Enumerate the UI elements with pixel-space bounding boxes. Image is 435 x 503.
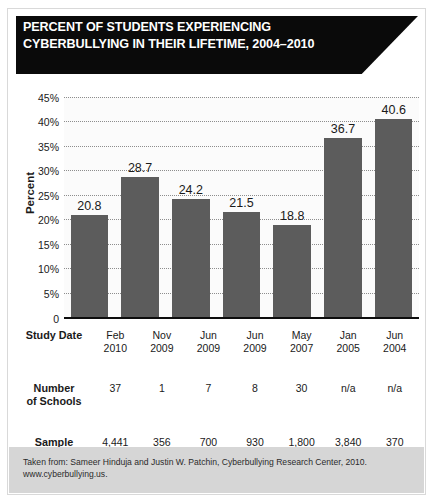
bar-slot: 21.5 bbox=[216, 97, 267, 317]
bar-slot: 18.8 bbox=[267, 97, 318, 317]
cell-study-date: Jun2009 bbox=[185, 329, 232, 355]
page-title-line-1: PERCENT OF STUDENTS EXPERIENCING bbox=[23, 19, 353, 36]
row-label-number-of-schools: Number of Schools bbox=[16, 382, 92, 408]
bar-value-label: 21.5 bbox=[216, 196, 267, 210]
source-line-2: www.cyberbullying.us. bbox=[23, 468, 403, 480]
page-title-line-2: CYBERBULLYING IN THEIR LIFETIME, 2004–20… bbox=[23, 36, 353, 53]
row-label-study-date: Study Date bbox=[16, 329, 92, 342]
cell-study-date: Nov2009 bbox=[139, 329, 186, 355]
page-title: PERCENT OF STUDENTS EXPERIENCING CYBERBU… bbox=[23, 19, 353, 53]
bar[interactable] bbox=[71, 215, 109, 317]
cell-number-of-schools: 30 bbox=[278, 382, 325, 395]
plot-area: 45%40%35%30%25%20%15%10%5%0 20.828.724.2… bbox=[64, 97, 419, 317]
bar-slot: 24.2 bbox=[165, 97, 216, 317]
cell-number-of-schools: n/a bbox=[371, 382, 418, 395]
cell-study-date: Jan2005 bbox=[325, 329, 372, 355]
y-axis-tick-label: 25% bbox=[38, 190, 59, 202]
row-cells-number-of-schools: 3717830n/an/a bbox=[92, 382, 418, 395]
bar[interactable] bbox=[273, 225, 311, 317]
y-axis-tick-label: 0 bbox=[53, 313, 59, 325]
bar[interactable] bbox=[121, 177, 159, 317]
row-cells-study-date: Feb2010Nov2009Jun2009Jun2009May2007Jan20… bbox=[92, 329, 418, 355]
bar-slot: 40.6 bbox=[368, 97, 419, 317]
bar-slot: 20.8 bbox=[64, 97, 115, 317]
axis-baseline: 0 bbox=[64, 317, 419, 319]
bar[interactable] bbox=[172, 199, 210, 317]
cell-number-of-schools: 37 bbox=[92, 382, 139, 395]
bar-series: 20.828.724.221.518.836.740.6 bbox=[64, 97, 419, 317]
cell-study-date: Jun2009 bbox=[232, 329, 279, 355]
bar-value-label: 36.7 bbox=[318, 122, 369, 136]
cell-number-of-schools: 7 bbox=[185, 382, 232, 395]
data-table: Study Date Feb2010Nov2009Jun2009Jun2009M… bbox=[16, 327, 418, 462]
bar-value-label: 24.2 bbox=[165, 183, 216, 197]
bar-value-label: 40.6 bbox=[368, 103, 419, 117]
source-attribution: Taken from: Sameer Hinduja and Justin W.… bbox=[23, 456, 403, 480]
cell-number-of-schools: 8 bbox=[232, 382, 279, 395]
cell-study-date: Jun2004 bbox=[371, 329, 418, 355]
bar[interactable] bbox=[375, 119, 413, 317]
source-line-1: Taken from: Sameer Hinduja and Justin W.… bbox=[23, 456, 403, 468]
bar[interactable] bbox=[324, 138, 362, 317]
bar-chart: Percent 45%40%35%30%25%20%15%10%5%0 20.8… bbox=[16, 79, 418, 327]
bar-value-label: 28.7 bbox=[115, 161, 166, 175]
table-row-number-of-schools: Number of Schools 3717830n/an/a bbox=[16, 355, 418, 408]
bar[interactable] bbox=[223, 212, 261, 317]
y-axis-tick-label: 15% bbox=[38, 239, 59, 251]
y-axis-tick-label: 5% bbox=[44, 288, 59, 300]
y-axis-tick-label: 45% bbox=[38, 92, 59, 104]
y-axis-title: Percent bbox=[24, 143, 36, 243]
y-axis-tick-label: 20% bbox=[38, 214, 59, 226]
y-axis-tick-label: 35% bbox=[38, 141, 59, 153]
y-axis-tick-label: 10% bbox=[38, 263, 59, 275]
y-axis-tick-label: 30% bbox=[38, 165, 59, 177]
cell-study-date: Feb2010 bbox=[92, 329, 139, 355]
chart-card: PERCENT OF STUDENTS EXPERIENCING CYBERBU… bbox=[7, 8, 426, 495]
table-row-study-date: Study Date Feb2010Nov2009Jun2009Jun2009M… bbox=[16, 327, 418, 355]
cell-number-of-schools: n/a bbox=[325, 382, 372, 395]
bar-slot: 36.7 bbox=[318, 97, 369, 317]
bar-value-label: 18.8 bbox=[267, 209, 318, 223]
bar-slot: 28.7 bbox=[115, 97, 166, 317]
bar-value-label: 20.8 bbox=[64, 199, 115, 213]
footer-band: Taken from: Sameer Hinduja and Justin W.… bbox=[9, 447, 424, 493]
cell-number-of-schools: 1 bbox=[139, 382, 186, 395]
cell-study-date: May2007 bbox=[278, 329, 325, 355]
y-axis-tick-label: 40% bbox=[38, 116, 59, 128]
